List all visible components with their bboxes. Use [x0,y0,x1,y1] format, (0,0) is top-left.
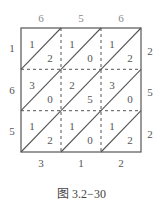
cell-ones-digit: 0 [87,52,93,64]
cell-tens-digit: 3 [109,79,115,91]
cell-tens-digit: 1 [109,120,115,132]
cell-tens-digit: 2 [69,79,75,91]
diagonal-lines [21,28,141,152]
right-digit: 2 [147,128,153,140]
bottom-digit: 3 [38,157,44,169]
cell-ones-digit: 2 [127,52,133,64]
top-digit: 6 [118,12,124,24]
cell-ones-digit: 5 [87,93,93,105]
bottom-digit: 1 [78,157,84,169]
cell-ones-digit: 0 [127,93,133,105]
cell-tens-digit: 1 [29,38,35,50]
cell-ones-digit: 2 [47,134,53,146]
left-digit: 6 [9,84,15,96]
right-digit: 5 [147,86,153,98]
top-digit: 5 [78,12,84,24]
top-digit: 6 [38,12,44,24]
figure-caption: 图 3.2−30 [0,184,163,202]
cell-tens-digit: 1 [29,120,35,132]
left-digit: 5 [9,125,15,137]
lattice-multiplication-diagram: 6 5 6 1 6 5 2 5 2 3 1 2 1 2 1 0 1 2 3 0 … [0,0,163,206]
cell-ones-digit: 0 [47,93,53,105]
cell-tens-digit: 1 [69,38,75,50]
right-digit: 2 [147,45,153,57]
left-digit: 1 [9,42,15,54]
cell-tens-digit: 3 [29,79,35,91]
cell-ones-digit: 2 [47,52,53,64]
cell-tens-digit: 1 [109,38,115,50]
bottom-digit: 2 [118,157,124,169]
cell-ones-digit: 2 [127,134,133,146]
cell-ones-digit: 0 [87,134,93,146]
cell-tens-digit: 1 [69,120,75,132]
